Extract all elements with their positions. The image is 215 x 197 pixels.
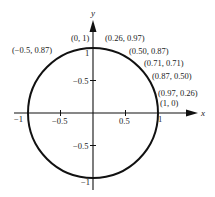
x-tick-label-pos-1: 1: [158, 114, 162, 124]
point-label: (0.97, 0.26): [158, 88, 198, 98]
y-tick-label-pos-half: −0.5: [73, 76, 88, 86]
x-axis-arrow-icon: [186, 110, 198, 117]
point-label: (0.50, 0.87): [129, 46, 169, 56]
x-tick-label-neg-half: −0.5: [52, 116, 67, 126]
y-tick-label-neg-1: −1: [81, 177, 90, 187]
y-tick-label-neg-half: −0.5: [73, 141, 88, 151]
unit-circle-diagram: x y −1 −0.5 0.5 1 1 −0.5 −0.5 −1 (−0.5, …: [0, 0, 215, 197]
x-tick-label-neg-1: −1: [14, 114, 23, 124]
x-axis-label: x: [200, 108, 205, 118]
y-tick-label-pos-1: 1: [85, 48, 89, 58]
y-axis-label: y: [90, 8, 95, 18]
point-label: (0.26, 0.97): [105, 33, 145, 43]
x-tick-label-pos-half: 0.5: [119, 116, 130, 126]
point-label: (1, 0): [160, 98, 179, 108]
point-label: (0, 1): [71, 33, 90, 43]
y-axis-arrow-icon: [90, 20, 97, 32]
point-label: (0.87, 0.50): [152, 71, 192, 81]
point-label: (−0.5, 0.87): [12, 45, 52, 55]
point-label: (0.71, 0.71): [144, 58, 184, 68]
